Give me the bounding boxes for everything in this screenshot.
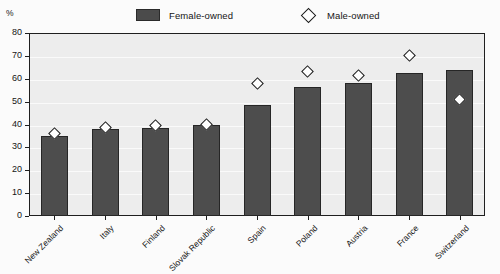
y-axis-tick: 20 — [0, 170, 29, 171]
bar-female-owned[interactable] — [294, 87, 321, 216]
marker-male-owned[interactable] — [352, 69, 365, 82]
y-axis-tick: 70 — [0, 56, 29, 57]
y-axis-tick: 50 — [0, 102, 29, 103]
y-tick-label: 40 — [12, 119, 22, 130]
bar-group[interactable] — [142, 33, 169, 216]
y-axis-tick: 40 — [0, 125, 29, 126]
bar-group[interactable] — [92, 33, 119, 216]
x-axis-category-label: Austria — [344, 223, 370, 249]
chart-legend: Female-owned Male-owned — [0, 6, 500, 24]
data-series-layer — [29, 33, 485, 216]
bar-female-owned[interactable] — [142, 128, 169, 216]
y-tick-label: 10 — [12, 187, 22, 198]
x-axis-tick — [460, 216, 461, 220]
x-axis-tick — [358, 216, 359, 220]
marker-male-owned[interactable] — [251, 77, 264, 90]
y-tick-label: 20 — [12, 164, 22, 175]
bar-group[interactable] — [244, 33, 271, 216]
x-axis-tick — [257, 216, 258, 220]
x-axis-tick — [308, 216, 309, 220]
bar-group[interactable] — [294, 33, 321, 216]
bar-female-owned[interactable] — [345, 83, 372, 216]
y-axis-tick: 60 — [0, 79, 29, 80]
bar-group[interactable] — [396, 33, 423, 216]
chart-container: Female-owned Male-owned % 80706050403020… — [0, 0, 500, 274]
x-axis-tick — [54, 216, 55, 220]
y-axis-tick: 10 — [0, 193, 29, 194]
y-axis-unit-label: % — [6, 8, 14, 18]
y-tick-label: 60 — [12, 73, 22, 84]
bar-female-owned[interactable] — [193, 125, 220, 217]
x-axis-tick — [105, 216, 106, 220]
legend-label-male-owned: Male-owned — [327, 10, 380, 21]
bar-female-owned[interactable] — [41, 136, 68, 216]
bar-female-owned[interactable] — [446, 70, 473, 216]
legend-item-male-owned: Male-owned — [300, 6, 380, 24]
x-axis-category-label: Slovak Republic — [167, 223, 217, 273]
x-axis-tick — [156, 216, 157, 220]
legend-item-female-owned: Female-owned — [136, 6, 233, 24]
x-axis-category-label: Spain — [245, 223, 267, 245]
marker-male-owned[interactable] — [403, 50, 416, 63]
y-axis-tick: 0 — [0, 216, 29, 217]
bar-female-owned[interactable] — [396, 73, 423, 216]
marker-male-owned[interactable] — [301, 66, 314, 79]
bar-female-owned[interactable] — [244, 105, 271, 216]
bar-group[interactable] — [41, 33, 68, 216]
y-tick-label: 80 — [12, 27, 22, 38]
bar-group[interactable] — [345, 33, 372, 216]
bar-group[interactable] — [193, 33, 220, 216]
x-axis-tick — [206, 216, 207, 220]
bar-group[interactable] — [446, 33, 473, 216]
x-axis-category-label: Poland — [293, 223, 319, 249]
y-tick-label: 0 — [17, 210, 22, 221]
bar-female-owned[interactable] — [92, 129, 119, 216]
y-tick-mark — [25, 216, 29, 217]
y-tick-label: 30 — [12, 141, 22, 152]
y-axis-tick: 80 — [0, 33, 29, 34]
legend-bar-swatch-icon — [136, 9, 160, 21]
x-axis-category-label: Finland — [140, 223, 167, 250]
x-axis-tick — [409, 216, 410, 220]
x-axis-category-label: Italy — [98, 223, 116, 241]
x-axis-category-label: France — [395, 223, 421, 249]
y-axis-tick: 30 — [0, 147, 29, 148]
legend-label-female-owned: Female-owned — [169, 10, 233, 21]
x-axis-category-label: Switzerland — [433, 223, 471, 261]
x-axis-category-label: New Zealand — [23, 223, 65, 265]
y-tick-label: 50 — [12, 96, 22, 107]
y-tick-label: 70 — [12, 50, 22, 61]
legend-diamond-marker-icon — [301, 7, 317, 23]
